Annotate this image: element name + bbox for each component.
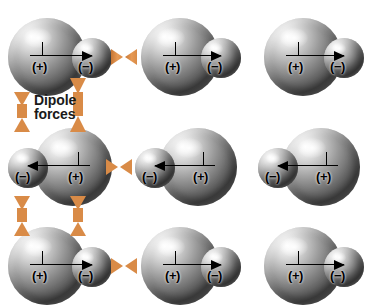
molecule-r2c3: (+) (−) bbox=[256, 128, 360, 206]
charge-label-negative-r3c2: (−) bbox=[207, 268, 222, 283]
dipole-force-arrow-row1 bbox=[111, 47, 137, 67]
dipole-forces-label: Dipole forces bbox=[34, 93, 76, 122]
charge-label-positive-r1c1: (+) bbox=[32, 59, 47, 74]
molecule-r2c2: (+) (−) bbox=[133, 128, 237, 206]
dipole-vector-r3c2 bbox=[163, 264, 221, 265]
dipole-vector-r3c1 bbox=[30, 264, 92, 265]
dipole-plus-tick-r2c2 bbox=[203, 152, 204, 165]
dipole-plus-tick-r3c3 bbox=[298, 251, 299, 264]
molecule-r1c3: (+) (−) bbox=[264, 18, 368, 96]
molecule-r1c1: (+) (−) bbox=[8, 18, 112, 96]
charge-label-negative-r3c1: (−) bbox=[78, 268, 93, 283]
charge-label-positive-r2c2: (+) bbox=[193, 169, 208, 184]
dipole-vector-r2c3 bbox=[278, 165, 338, 166]
charge-label-negative-r3c3: (−) bbox=[330, 268, 345, 283]
dipole-vector-r1c3 bbox=[286, 55, 344, 56]
molecule-r3c1: (+) (−) bbox=[8, 227, 112, 305]
dipole-force-arrow-row2 bbox=[106, 157, 132, 177]
dipole-plus-tick-r1c2 bbox=[175, 42, 176, 55]
charge-label-positive-r2c3: (+) bbox=[316, 169, 331, 184]
dipole-forces-figure: (+) (−) (+) (−) (+) (−) (+) (−) (+) (−) bbox=[0, 0, 374, 307]
charge-label-negative-r1c2: (−) bbox=[207, 59, 222, 74]
dipole-vector-r2c2 bbox=[155, 165, 215, 166]
molecule-r3c2: (+) (−) bbox=[141, 227, 245, 305]
charge-label-negative-r1c1: (−) bbox=[78, 59, 93, 74]
dipole-plus-tick-r1c1 bbox=[42, 42, 43, 55]
dipole-force-arrow-col1-lower bbox=[12, 196, 32, 236]
charge-label-negative-r2c3: (−) bbox=[265, 169, 280, 184]
dipole-force-arrow-row3 bbox=[111, 256, 137, 276]
charge-label-positive-r3c1: (+) bbox=[32, 268, 47, 283]
molecule-r3c3: (+) (−) bbox=[264, 227, 368, 305]
dipole-vector-r2c1 bbox=[28, 165, 90, 166]
molecule-r1c2: (+) (−) bbox=[141, 18, 245, 96]
dipole-plus-tick-r3c1 bbox=[42, 251, 43, 264]
dipole-force-arrow-col1-upper bbox=[12, 92, 32, 132]
charge-label-positive-r2c1: (+) bbox=[68, 169, 83, 184]
charge-label-positive-r1c2: (+) bbox=[165, 59, 180, 74]
charge-label-negative-r2c2: (−) bbox=[142, 169, 157, 184]
charge-label-negative-r2c1: (−) bbox=[15, 169, 30, 184]
charge-label-positive-r3c3: (+) bbox=[288, 268, 303, 283]
dipole-force-arrow-col2-lower bbox=[68, 196, 88, 236]
dipole-plus-tick-r3c2 bbox=[175, 251, 176, 264]
charge-label-positive-r1c3: (+) bbox=[288, 59, 303, 74]
charge-label-positive-r3c2: (+) bbox=[165, 268, 180, 283]
dipole-vector-r3c3 bbox=[286, 264, 344, 265]
dipole-plus-tick-r2c1 bbox=[78, 152, 79, 165]
dipole-vector-r1c2 bbox=[163, 55, 221, 56]
charge-label-negative-r1c3: (−) bbox=[330, 59, 345, 74]
dipole-plus-tick-r1c3 bbox=[298, 42, 299, 55]
dipole-plus-tick-r2c3 bbox=[326, 152, 327, 165]
molecule-r2c1: (+) (−) bbox=[8, 128, 112, 206]
dipole-vector-r1c1 bbox=[30, 55, 92, 56]
